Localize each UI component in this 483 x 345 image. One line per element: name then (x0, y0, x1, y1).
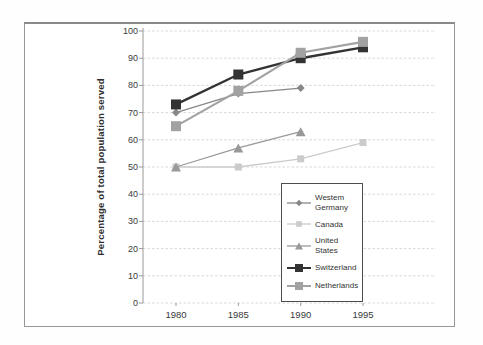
legend-item-united-states: United States (287, 236, 361, 255)
x-tick-label-1995: 1995 (352, 309, 373, 320)
legend-item-switzerland: Switzerland (287, 262, 361, 274)
legend-symbol-canada (296, 222, 302, 228)
page: 01020304050607080901001980198519901995 P… (0, 0, 483, 345)
legend-label-westem-germany: Westem Germany (315, 193, 361, 212)
series-netherlands-marker (358, 37, 368, 47)
series-canada-marker (297, 155, 304, 162)
y-tick-label-50: 50 (128, 162, 138, 172)
y-tick-label-80: 80 (128, 80, 138, 90)
chart-legend: Westem GermanyCanadaUnited StatesSwitzer… (281, 183, 363, 302)
legend-symbol-switzerland (295, 264, 303, 272)
legend-label-united-states: United States (315, 236, 361, 255)
y-tick-label-70: 70 (128, 108, 138, 118)
series-switzerland (171, 42, 368, 109)
y-tick-label-0: 0 (133, 298, 138, 308)
series-canada-marker (359, 139, 366, 146)
legend-label-netherlands: Netherlands (315, 281, 358, 291)
legend-label-switzerland: Switzerland (315, 263, 356, 273)
series-canada-line (176, 143, 363, 167)
legend-marker-switzerland (287, 262, 311, 274)
line-chart: 01020304050607080901001980198519901995 (0, 0, 483, 345)
x-tick-label-1980: 1980 (165, 309, 186, 320)
series-netherlands-marker (233, 86, 243, 96)
series-westem-germany-marker (172, 109, 180, 117)
y-tick-label-10: 10 (128, 271, 138, 281)
legend-item-canada: Canada (287, 218, 361, 230)
legend-marker-westem-germany (287, 197, 311, 209)
y-tick-label-40: 40 (128, 189, 138, 199)
series-united-states-marker (233, 143, 243, 152)
y-tick-label-100: 100 (123, 26, 138, 36)
legend-marker-united-states (287, 240, 311, 252)
legend-label-canada: Canada (315, 220, 343, 230)
legend-marker-canada (287, 218, 311, 230)
series-united-states-marker (296, 127, 306, 136)
series-netherlands-line (176, 42, 363, 126)
legend-item-netherlands: Netherlands (287, 280, 361, 292)
y-tick-label-90: 90 (128, 53, 138, 63)
x-tick-label-1990: 1990 (290, 309, 311, 320)
legend-item-westem-germany: Westem Germany (287, 193, 361, 212)
series-switzerland-line (176, 47, 363, 104)
series-canada (173, 139, 367, 170)
series-switzerland-marker (233, 70, 243, 80)
legend-symbol-westem-germany (296, 199, 302, 205)
y-tick-label-60: 60 (128, 135, 138, 145)
y-axis-label: Percentage of total population served (95, 78, 106, 255)
legend-symbol-netherlands (295, 282, 303, 290)
series-canada-marker (235, 164, 242, 171)
series-netherlands-marker (171, 121, 181, 131)
y-tick-label-30: 30 (128, 216, 138, 226)
series-switzerland-marker (171, 99, 181, 109)
x-tick-label-1985: 1985 (228, 309, 249, 320)
y-tick-label-20: 20 (128, 244, 138, 254)
series-netherlands-marker (296, 48, 306, 58)
legend-marker-netherlands (287, 280, 311, 292)
